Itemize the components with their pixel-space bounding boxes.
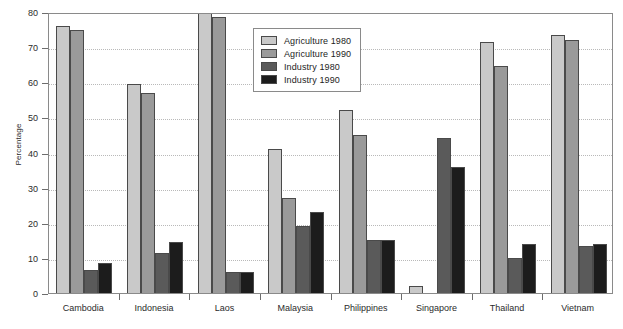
legend-label: Agriculture 1980 bbox=[284, 36, 351, 46]
x-tick bbox=[472, 294, 473, 300]
x-tick-label: Singapore bbox=[416, 303, 457, 313]
x-tick bbox=[401, 294, 402, 300]
x-tick-label: Vietnam bbox=[561, 303, 594, 313]
bar-group-bars bbox=[120, 14, 191, 293]
bar[interactable] bbox=[296, 226, 310, 293]
bar-group-bars bbox=[402, 14, 473, 293]
bar[interactable] bbox=[127, 84, 141, 293]
bar-group bbox=[473, 14, 544, 293]
legend-label: Industry 1980 bbox=[284, 62, 340, 72]
bar-group-bars bbox=[190, 14, 261, 293]
y-tick-label: 60 bbox=[0, 78, 38, 88]
y-tick bbox=[42, 259, 48, 260]
y-tick bbox=[42, 154, 48, 155]
bar[interactable] bbox=[141, 93, 155, 293]
bar[interactable] bbox=[367, 240, 381, 293]
x-tick bbox=[119, 294, 120, 300]
y-tick-label: 10 bbox=[0, 254, 38, 264]
bar[interactable] bbox=[56, 26, 70, 293]
x-tick-label: Laos bbox=[215, 303, 235, 313]
y-tick bbox=[42, 48, 48, 49]
y-tick bbox=[42, 294, 48, 295]
bar[interactable] bbox=[198, 14, 212, 293]
bar[interactable] bbox=[339, 110, 353, 293]
x-tick bbox=[189, 294, 190, 300]
y-tick bbox=[42, 189, 48, 190]
bar[interactable] bbox=[508, 258, 522, 293]
bar[interactable] bbox=[565, 40, 579, 293]
legend-swatch bbox=[261, 62, 277, 71]
bar-group-bars bbox=[473, 14, 544, 293]
legend-item[interactable]: Agriculture 1980 bbox=[261, 34, 351, 47]
x-tick-label: Thailand bbox=[490, 303, 525, 313]
legend-item[interactable]: Agriculture 1990 bbox=[261, 47, 351, 60]
y-tick-label: 70 bbox=[0, 43, 38, 53]
bar[interactable] bbox=[451, 167, 465, 293]
bar-group bbox=[49, 14, 120, 293]
bar[interactable] bbox=[155, 253, 169, 293]
bar[interactable] bbox=[268, 149, 282, 293]
x-tick bbox=[331, 294, 332, 300]
bar[interactable] bbox=[84, 270, 98, 293]
bar[interactable] bbox=[437, 138, 451, 293]
bar[interactable] bbox=[480, 42, 494, 293]
bar-group bbox=[402, 14, 473, 293]
y-tick bbox=[42, 224, 48, 225]
y-tick-label: 30 bbox=[0, 184, 38, 194]
bar[interactable] bbox=[522, 244, 536, 293]
bar[interactable] bbox=[381, 240, 395, 293]
bar[interactable] bbox=[240, 272, 254, 293]
bar[interactable] bbox=[494, 66, 508, 293]
legend-swatch bbox=[261, 75, 277, 84]
legend-swatch bbox=[261, 36, 277, 45]
bar[interactable] bbox=[169, 242, 183, 293]
bar-group-bars bbox=[49, 14, 120, 293]
y-tick bbox=[42, 118, 48, 119]
x-tick-label: Indonesia bbox=[134, 303, 173, 313]
y-tick-label: 0 bbox=[0, 289, 38, 299]
legend-rows: Agriculture 1980Agriculture 1990Industry… bbox=[261, 34, 351, 86]
legend-label: Industry 1990 bbox=[284, 75, 340, 85]
x-tick-label: Philippines bbox=[344, 303, 388, 313]
bar[interactable] bbox=[310, 212, 324, 293]
legend-item[interactable]: Industry 1980 bbox=[261, 60, 351, 73]
x-tick bbox=[260, 294, 261, 300]
y-tick bbox=[42, 83, 48, 84]
x-tick-label: Malaysia bbox=[277, 303, 313, 313]
y-tick-label: 40 bbox=[0, 149, 38, 159]
bar-group bbox=[190, 14, 261, 293]
x-tick-label: Cambodia bbox=[63, 303, 104, 313]
y-tick-label: 50 bbox=[0, 113, 38, 123]
y-tick-label: 20 bbox=[0, 219, 38, 229]
bar-group bbox=[543, 14, 612, 293]
bar[interactable] bbox=[70, 30, 84, 293]
bar[interactable] bbox=[282, 198, 296, 293]
legend-label: Agriculture 1990 bbox=[284, 49, 351, 59]
bar[interactable] bbox=[98, 263, 112, 293]
y-tick-label: 80 bbox=[0, 8, 38, 18]
bar[interactable] bbox=[579, 246, 593, 293]
legend-swatch bbox=[261, 49, 277, 58]
bar[interactable] bbox=[212, 17, 226, 293]
legend-item[interactable]: Industry 1990 bbox=[261, 73, 351, 86]
bar[interactable] bbox=[226, 272, 240, 293]
bar-group-bars bbox=[543, 14, 612, 293]
bar[interactable] bbox=[409, 286, 423, 293]
bar-chart: Percentage 01020304050607080 CambodiaInd… bbox=[0, 0, 623, 329]
bar[interactable] bbox=[593, 244, 607, 293]
bar[interactable] bbox=[353, 135, 367, 293]
y-tick bbox=[42, 13, 48, 14]
bar[interactable] bbox=[551, 35, 565, 293]
bar-group bbox=[120, 14, 191, 293]
x-tick bbox=[542, 294, 543, 300]
legend: Agriculture 1980Agriculture 1990Industry… bbox=[253, 28, 361, 92]
